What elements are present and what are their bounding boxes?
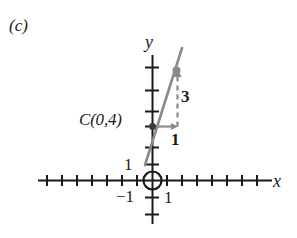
point-marker-second: [173, 67, 181, 75]
rise-value-label: 3: [181, 88, 190, 105]
y-tick-label-positive-one: 1: [124, 156, 133, 173]
point-label-c: C(0,4): [79, 111, 122, 128]
x-tick-label-positive-one: 1: [164, 189, 173, 206]
run-value-label: 1: [171, 131, 180, 148]
panel-letter-label: (c): [9, 17, 28, 34]
y-axis-label: y: [145, 33, 153, 51]
point-marker-c: [149, 123, 156, 130]
x-axis-group: [38, 175, 272, 186]
x-axis-label: x: [273, 172, 281, 190]
figure-panel-c: (c) y x C(0,4) 3 1 1 −1 1: [0, 0, 297, 238]
y-tick-label-negative-one: −1: [116, 188, 134, 205]
